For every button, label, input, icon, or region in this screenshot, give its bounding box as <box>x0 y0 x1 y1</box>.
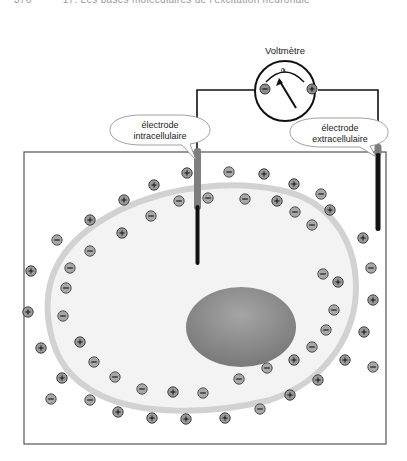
extracellular-label-line2: extracellulaire <box>312 134 368 144</box>
negative-terminal-icon <box>260 84 270 94</box>
resting-potential-diagram: Voltmètre 0 électrode intracellulaire él… <box>0 0 407 461</box>
intracellular-label-line2: intracellulaire <box>133 131 186 141</box>
positive-terminal-icon <box>307 84 317 94</box>
voltmeter <box>255 61 317 121</box>
nucleus <box>186 287 296 367</box>
voltmeter-zero: 0 <box>281 66 286 75</box>
voltmeter-title: Voltmètre <box>265 45 305 56</box>
extracellular-label: électrode extracellulaire <box>290 118 388 157</box>
extracellular-label-line1: électrode <box>321 123 358 133</box>
intracellular-label-line1: électrode <box>141 120 178 130</box>
